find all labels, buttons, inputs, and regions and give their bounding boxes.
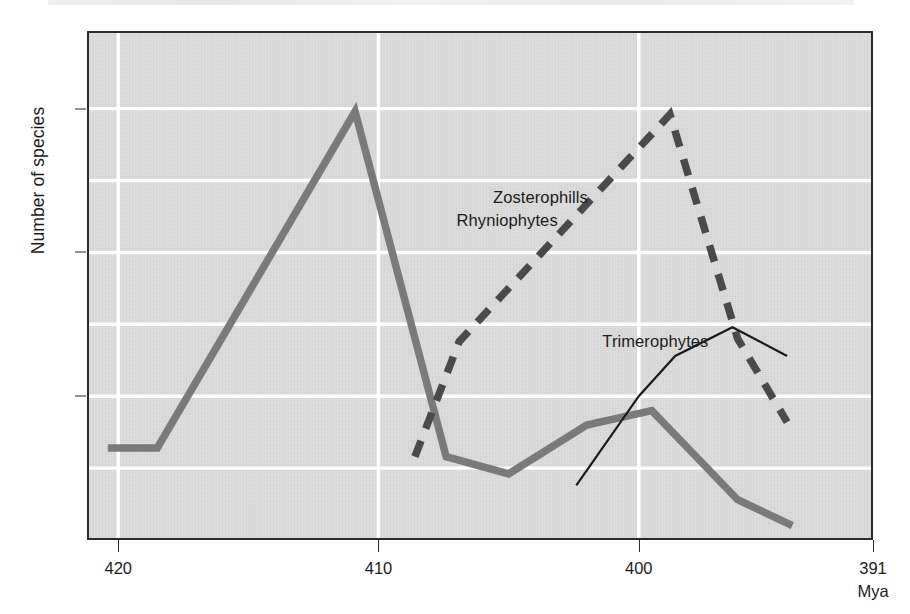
- figure-page: Number of species RhyniophytesZosterophi…: [0, 0, 910, 614]
- x-tick-mark: [639, 540, 640, 552]
- series-label-trimerophytes: Trimerophytes: [602, 332, 708, 351]
- series-label-rhyniophytes: Rhyniophytes: [457, 211, 558, 230]
- x-tick-label: 391: [859, 559, 887, 578]
- chart-svg: [87, 31, 873, 540]
- x-tick-label: 400: [625, 559, 653, 578]
- x-tick-label: 420: [104, 559, 132, 578]
- series-label-zosterophills: Zosterophills: [493, 188, 588, 207]
- y-tick-mark: [75, 108, 86, 109]
- y-axis-title: Number of species: [28, 51, 49, 311]
- series-line-trimerophytes: [576, 327, 787, 485]
- x-axis-unit-label: Mya: [857, 582, 888, 601]
- x-tick-mark: [378, 540, 379, 552]
- species-diversity-chart: Number of species RhyniophytesZosterophi…: [0, 0, 910, 614]
- x-tick-mark: [873, 540, 874, 552]
- y-tick-mark: [75, 396, 86, 397]
- series-line-zosterophills: [415, 114, 787, 456]
- x-tick-label: 410: [365, 559, 393, 578]
- y-tick-mark: [75, 252, 86, 253]
- plot-area: RhyniophytesZosterophillsTrimerophytes 5…: [87, 31, 873, 540]
- x-tick-mark: [118, 540, 119, 552]
